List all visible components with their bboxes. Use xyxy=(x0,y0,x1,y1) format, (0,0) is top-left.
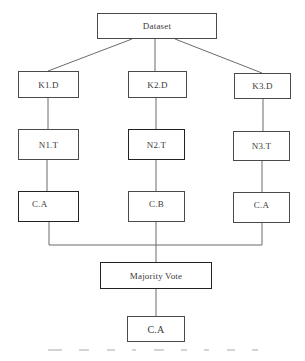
node-result: C.A xyxy=(127,316,185,342)
cropped-caption xyxy=(48,347,258,353)
node-k2-label: K2.D xyxy=(147,80,168,90)
node-majority-vote: Majority Vote xyxy=(100,262,212,289)
node-n3-label: N3.T xyxy=(252,141,272,151)
node-k1-label: K1.D xyxy=(38,80,59,90)
node-c3: C.A xyxy=(233,192,290,223)
node-dataset: Dataset xyxy=(97,13,217,39)
ensemble-majority-vote-diagram: Dataset K1.D K2.D K3.D N1.T N2.T N3.T C.… xyxy=(0,0,305,361)
node-k3-label: K3.D xyxy=(252,81,273,91)
node-k3: K3.D xyxy=(234,73,291,99)
node-n3: N3.T xyxy=(233,131,290,161)
node-majority-vote-label: Majority Vote xyxy=(130,271,183,281)
node-k1: K1.D xyxy=(18,71,79,98)
node-c1-label: C.A xyxy=(32,199,47,209)
node-c3-label: C.A xyxy=(254,200,269,210)
edge-dataset-k1 xyxy=(48,39,132,71)
node-n1: N1.T xyxy=(18,129,79,160)
node-c2-label: C.B xyxy=(149,199,164,209)
node-n1-label: N1.T xyxy=(39,140,59,150)
node-n2-label: N2.T xyxy=(147,140,167,150)
node-dataset-label: Dataset xyxy=(143,21,171,31)
connector-lines xyxy=(0,0,305,361)
node-result-label: C.A xyxy=(148,324,165,335)
node-n2: N2.T xyxy=(128,129,185,160)
node-k2: K2.D xyxy=(128,71,187,98)
node-c1: C.A xyxy=(18,191,79,222)
edge-dataset-k3 xyxy=(175,39,262,73)
node-c2: C.B xyxy=(128,191,185,222)
